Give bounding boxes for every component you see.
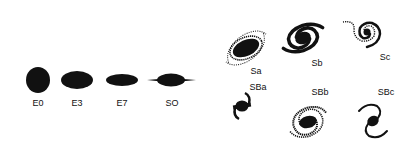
- galaxy-e0: E0: [26, 67, 50, 108]
- galaxy-e0-label: E0: [32, 98, 43, 108]
- galaxy-sbc: SBc: [359, 87, 395, 137]
- galaxy-sba: SBa: [233, 82, 267, 119]
- galaxy-sbb-label: SBb: [311, 87, 328, 97]
- galaxy-s0: SO: [147, 74, 196, 109]
- galaxy-sa-label: Sa: [250, 66, 261, 76]
- galaxy-sba-label: SBa: [249, 82, 266, 92]
- galaxy-classification-diagram: E0 E3 E7 SO Sa Sb: [0, 0, 419, 152]
- galaxy-e7-label: E7: [116, 98, 127, 108]
- galaxy-e3: E3: [61, 71, 93, 108]
- galaxy-s0-bulge: [157, 74, 185, 87]
- galaxy-sa: Sa: [219, 26, 273, 76]
- galaxy-sbc-label: SBc: [378, 87, 395, 97]
- galaxy-sc-label: Sc: [380, 52, 391, 62]
- galaxy-sb: Sb: [278, 19, 328, 68]
- galaxy-e3-label: E3: [71, 98, 82, 108]
- galaxy-e3-shape: [61, 71, 93, 89]
- galaxy-e7: E7: [106, 74, 138, 108]
- galaxy-e7-shape: [106, 74, 138, 86]
- galaxy-sc: Sc: [343, 22, 391, 62]
- galaxy-sbb: SBb: [285, 87, 331, 141]
- galaxy-sb-label: Sb: [311, 58, 322, 68]
- galaxy-e0-shape: [26, 67, 50, 93]
- galaxy-s0-label: SO: [165, 98, 178, 108]
